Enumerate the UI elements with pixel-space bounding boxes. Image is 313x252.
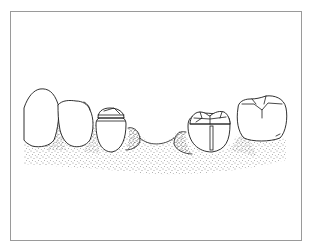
tooth-5 <box>237 96 287 141</box>
tooth-3 <box>96 108 126 152</box>
tooth-4 <box>188 111 230 152</box>
dental-illustration <box>0 0 313 252</box>
tooth-1 <box>24 89 59 147</box>
